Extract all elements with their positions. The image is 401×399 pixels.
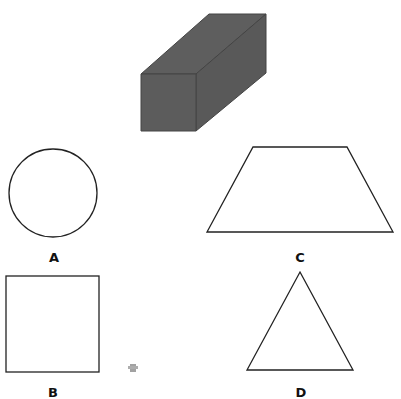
- scan-smudge: [128, 364, 138, 372]
- option-d-triangle: [247, 272, 353, 370]
- option-b-label: B: [48, 385, 58, 399]
- diagram-canvas: A C B D: [0, 0, 401, 399]
- option-a-circle: [9, 149, 97, 237]
- option-a-label: A: [49, 250, 59, 265]
- option-c-trapezoid: [207, 147, 393, 232]
- option-d-label: D: [296, 385, 307, 399]
- rectangular-prism: [141, 14, 266, 131]
- option-c-label: C: [295, 250, 305, 265]
- option-b-square: [6, 276, 99, 372]
